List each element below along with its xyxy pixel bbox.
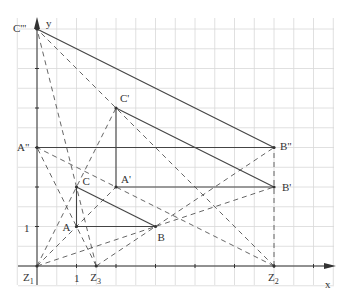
point-label-Z2: Z2 [268, 271, 279, 286]
point-marker-B1 [272, 185, 275, 188]
point-marker-C1 [114, 106, 117, 109]
point-label-Z1: Z1 [23, 271, 34, 286]
y-tick-label: 1 [24, 222, 30, 234]
point-label-Z3: Z3 [90, 271, 101, 286]
point-label-C2: C''' [13, 22, 26, 34]
point-label-B1: B' [282, 181, 291, 193]
grid [17, 18, 334, 286]
point-label-A2: A" [17, 141, 29, 153]
point-label-C: C [83, 175, 90, 187]
point-label-A1: A' [121, 173, 131, 185]
point-marker-A [75, 225, 78, 228]
y-axis-arrow-icon [34, 17, 40, 29]
x-tick-label: 1 [74, 272, 80, 284]
point-marker-Z1 [35, 264, 38, 267]
point-label-B2: B" [280, 140, 292, 152]
point-marker-B [154, 225, 157, 228]
y-axis-label: y [46, 17, 52, 29]
point-label-B: B [158, 231, 165, 243]
homothety-diagram: ABCA'B'C'A"B"C'''Z1Z2Z3 x y 1 1 [0, 0, 350, 300]
x-axis [18, 263, 336, 269]
point-label-C1: C' [120, 92, 129, 104]
point-marker-A1 [114, 185, 117, 188]
point-marker-B2 [272, 146, 275, 149]
point-label-A: A [63, 221, 71, 233]
point-marker-Z3 [95, 264, 98, 267]
x-axis-label: x [325, 278, 331, 290]
point-marker-C [75, 185, 78, 188]
x-axis-arrow-icon [324, 263, 336, 269]
